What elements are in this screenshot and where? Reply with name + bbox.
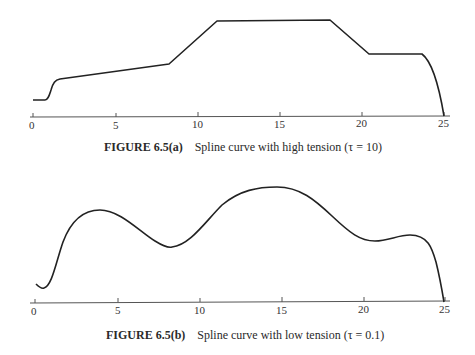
tick-label-a-15: 15 xyxy=(274,118,286,130)
spline-curve-low-tension xyxy=(36,187,444,302)
tick-label-b-15: 15 xyxy=(276,304,288,316)
tick-label-b-0: 0 xyxy=(31,305,37,317)
x-axis-a xyxy=(30,116,450,117)
caption-b: FIGURE 6.5(b)Spline curve with low tensi… xyxy=(106,328,384,343)
figure-canvas: 0 5 10 15 20 25 0 5 10 15 20 25 xyxy=(0,0,475,355)
x-axis-b xyxy=(30,301,450,303)
tick-label-a-25: 25 xyxy=(438,117,450,129)
tick-label-a-10: 10 xyxy=(192,118,204,130)
tick-label-b-25: 25 xyxy=(439,303,451,315)
caption-text-b: Spline curve with low tension (τ = 0.1) xyxy=(197,328,384,342)
figure-label-a: FIGURE 6.5(a) xyxy=(104,140,183,154)
caption-text-a: Spline curve with high tension (τ = 10) xyxy=(195,140,382,154)
tick-label-a-20: 20 xyxy=(356,117,368,129)
caption-a: FIGURE 6.5(a)Spline curve with high tens… xyxy=(104,140,382,155)
tick-label-b-5: 5 xyxy=(115,304,121,316)
tick-label-a-0: 0 xyxy=(29,119,35,131)
spline-curve-high-tension xyxy=(33,20,444,116)
figure-label-b: FIGURE 6.5(b) xyxy=(106,328,185,342)
tick-label-a-5: 5 xyxy=(113,119,119,131)
tick-label-b-20: 20 xyxy=(358,303,370,315)
chart-a: 0 5 10 15 20 25 xyxy=(29,20,450,131)
chart-b: 0 5 10 15 20 25 xyxy=(30,187,451,317)
tick-label-b-10: 10 xyxy=(194,304,206,316)
